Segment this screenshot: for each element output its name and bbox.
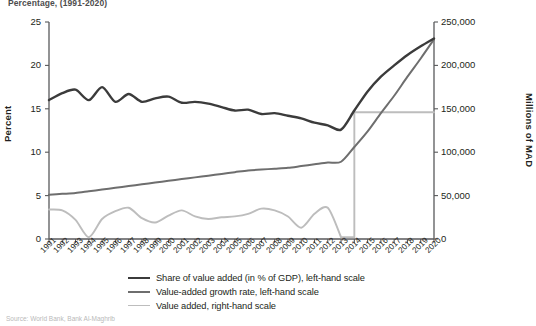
legend-label: Share of value added (in % of GDP), left… — [156, 273, 365, 283]
legend-swatch — [128, 305, 150, 306]
legend-item: Value-added growth rate, left-hand scale — [128, 285, 365, 298]
legend-swatch — [128, 277, 150, 279]
left-tick-label: 5 — [15, 190, 41, 201]
legend-swatch — [128, 291, 150, 293]
legend-label: Value added, right-hand scale — [156, 301, 276, 311]
left-tick-label: 20 — [15, 59, 41, 70]
right-tick-label: 250,000 — [441, 16, 493, 27]
right-tick-label: 50,000 — [441, 190, 493, 201]
left-tick-label: 10 — [15, 146, 41, 157]
right-tick-label: 0 — [441, 233, 493, 244]
legend-item: Value added, right-hand scale — [128, 299, 365, 312]
right-tick-label: 100,000 — [441, 146, 493, 157]
series-line-growth-rate — [49, 39, 434, 194]
right-tick-label: 200,000 — [441, 59, 493, 70]
legend-item: Share of value added (in % of GDP), left… — [128, 271, 365, 284]
series-line-value-added — [49, 112, 434, 237]
right-axis-label: Millions of MAD — [521, 70, 535, 190]
series-line-share — [49, 38, 434, 130]
left-axis-label: Percent — [2, 84, 16, 164]
right-tick-label: 150,000 — [441, 103, 493, 114]
legend-label: Value-added growth rate, left-hand scale — [156, 287, 319, 297]
left-tick-label: 25 — [15, 16, 41, 27]
chart-figure: Percentage, (1991-2020) Percent Millions… — [0, 0, 536, 326]
left-tick-label: 0 — [15, 233, 41, 244]
left-tick-label: 15 — [15, 103, 41, 114]
source-note: Source: World Bank, Bank Al-Maghrib — [6, 315, 306, 324]
chart-legend: Share of value added (in % of GDP), left… — [128, 271, 365, 313]
